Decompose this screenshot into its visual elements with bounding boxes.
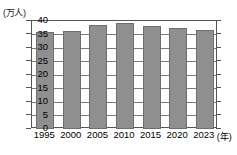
- y-axis-tick-label: 40: [37, 15, 48, 25]
- bar: [169, 28, 187, 129]
- y-axis-tick-mark-right: [216, 74, 221, 75]
- bar: [63, 31, 81, 129]
- bar: [196, 30, 214, 129]
- x-axis-tick-label: 2015: [140, 130, 161, 140]
- x-axis-tick-label: 2005: [87, 130, 108, 140]
- y-axis-tick-label: 15: [37, 83, 48, 93]
- x-axis-tick-label: 1995: [34, 130, 55, 140]
- y-axis-tick-mark-right: [216, 20, 221, 21]
- y-axis-tick-label: 30: [37, 42, 48, 52]
- y-axis-tick-mark: [26, 114, 31, 115]
- bar-chart: (万人) 0510152025303540 199520002005201020…: [0, 0, 237, 155]
- y-axis-tick-mark-right: [216, 47, 221, 48]
- y-axis-tick-mark: [26, 74, 31, 75]
- y-axis-tick-label: 5: [43, 110, 48, 120]
- x-axis-tick-label: 2023: [193, 130, 214, 140]
- y-axis-tick-mark: [26, 33, 31, 34]
- plot-area: [31, 20, 217, 128]
- y-axis-tick-mark-right: [216, 114, 221, 115]
- y-axis-tick-label: 20: [37, 69, 48, 79]
- y-axis-tick-mark: [26, 60, 31, 61]
- y-axis-tick-mark-right: [216, 60, 221, 61]
- x-axis-tick-label: 2020: [167, 130, 188, 140]
- y-axis-tick-mark: [26, 128, 31, 129]
- y-axis-unit-label: (万人): [3, 6, 26, 19]
- y-axis-tick-label: 25: [37, 56, 48, 66]
- y-axis-tick-mark-right: [216, 33, 221, 34]
- y-axis-tick-mark: [26, 47, 31, 48]
- x-axis-unit-label: (年): [217, 130, 232, 143]
- x-axis-tick-label: 2000: [60, 130, 81, 140]
- y-axis-tick-mark-right: [216, 128, 221, 129]
- x-axis-tick-label: 2010: [113, 130, 134, 140]
- y-axis-tick-mark: [26, 87, 31, 88]
- bar: [143, 26, 161, 129]
- y-axis-tick-label: 10: [37, 96, 48, 106]
- y-axis-tick-mark-right: [216, 87, 221, 88]
- y-axis-tick-mark: [26, 20, 31, 21]
- y-axis-tick-mark: [26, 101, 31, 102]
- y-axis-tick-mark-right: [216, 101, 221, 102]
- bar: [116, 23, 134, 129]
- y-axis-tick-label: 35: [37, 29, 48, 39]
- bar: [89, 25, 107, 129]
